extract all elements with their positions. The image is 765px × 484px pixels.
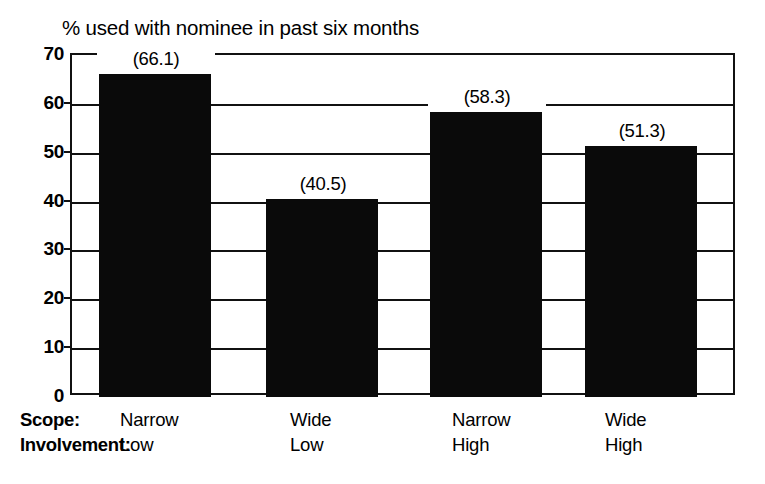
y-tick-label: 60 <box>18 93 64 112</box>
y-tick-label: 20 <box>18 288 64 307</box>
y-tick-label: 30 <box>18 239 64 258</box>
x-axis-category-label: Wide <box>605 409 646 431</box>
y-tick-label: 70 <box>18 44 64 63</box>
bar-chart-figure: % used with nominee in past six months 7… <box>0 0 765 484</box>
x-axis-row-label: Involvement: <box>20 434 131 456</box>
bar <box>585 146 697 397</box>
x-axis-row-label: Scope: <box>20 409 80 431</box>
x-axis-category-label: Low <box>120 434 153 456</box>
bar-value-label: (66.1) <box>97 49 215 69</box>
x-axis-category-label: Low <box>290 434 323 456</box>
x-axis-category-label: High <box>452 434 489 456</box>
bar <box>99 74 211 397</box>
x-axis-category-label: Narrow <box>452 409 510 431</box>
y-tick-label: 0 <box>18 386 64 405</box>
y-tick-label: 10 <box>18 337 64 356</box>
y-tick-label: 40 <box>18 191 64 210</box>
chart-title: % used with nominee in past six months <box>62 15 419 41</box>
bar-value-label: (40.5) <box>264 174 382 194</box>
bar <box>266 199 378 397</box>
x-axis-category-label: Wide <box>290 409 331 431</box>
bar-value-label: (58.3) <box>428 87 546 107</box>
plot-area <box>70 53 735 395</box>
bar-value-label: (51.3) <box>583 121 701 141</box>
x-axis-category-label: High <box>605 434 642 456</box>
x-axis-category-label: Narrow <box>120 409 178 431</box>
bar <box>430 112 542 397</box>
y-tick-label: 50 <box>18 142 64 161</box>
x-axis-category-block: Scope:NarrowWideNarrowWideInvolvement:Lo… <box>0 405 765 465</box>
